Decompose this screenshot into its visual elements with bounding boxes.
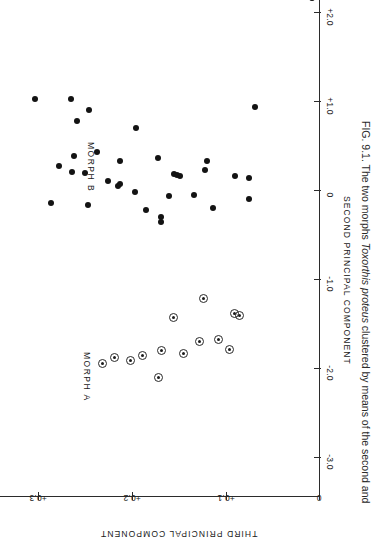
data-point-morph-b <box>204 158 210 164</box>
data-point-morph-a <box>179 349 188 358</box>
x-tick-label: -3.0 <box>325 454 335 469</box>
x-tick-label: -1.0 <box>325 276 335 291</box>
data-point-morph-b <box>71 153 77 159</box>
data-point-morph-b <box>246 196 252 202</box>
x-tick-mark <box>314 190 321 191</box>
data-point-morph-a <box>214 335 223 344</box>
caption-species-name: Toxorthis proteus <box>360 243 372 323</box>
scatter-plot: +2.0 +1.0 0 -1.0 -2.0 -3.0 +0.3 +0.2 +0.… <box>0 0 321 497</box>
data-point-morph-b <box>210 205 216 211</box>
third-principal-component-axis-line <box>0 496 320 497</box>
x-tick-mark <box>314 101 321 102</box>
data-point-morph-b <box>191 192 197 198</box>
data-point-morph-b <box>48 200 54 206</box>
data-point-morph-a <box>225 345 234 354</box>
x-tick-label: +1.0 <box>325 97 335 115</box>
x-tick-label: +2.0 <box>325 8 335 26</box>
data-point-morph-b <box>117 158 123 164</box>
y-axis-title: THIRD PRINCIPAL COMPONENT <box>100 529 257 539</box>
figure-caption: FIG. 9.1. The two morphs Toxorthis prote… <box>359 121 372 521</box>
data-point-morph-b <box>74 118 80 124</box>
data-point-morph-a <box>157 346 166 355</box>
x-tick-mark <box>314 279 321 280</box>
data-point-morph-b <box>309 0 315 1</box>
data-point-morph-b <box>82 170 88 176</box>
y-tick-label: 0 <box>317 493 322 503</box>
data-point-morph-b <box>166 193 172 199</box>
data-point-morph-b <box>32 96 38 102</box>
data-point-morph-b <box>132 189 138 195</box>
data-point-morph-b <box>158 219 164 225</box>
data-point-morph-b <box>85 202 91 208</box>
data-point-morph-b <box>94 149 100 155</box>
x-tick-label: -2.0 <box>325 365 335 380</box>
caption-figure-number: FIG. 9.1. <box>360 121 372 162</box>
x-tick-mark <box>314 368 321 369</box>
data-point-morph-a <box>169 313 178 322</box>
data-point-morph-a <box>154 373 163 382</box>
y-tick-label: +0.1 <box>217 493 235 503</box>
morph-a-group-label: MORPH A <box>82 352 92 402</box>
data-point-morph-b <box>202 167 208 173</box>
data-point-morph-b <box>69 169 75 175</box>
data-point-morph-a <box>195 337 204 346</box>
data-point-morph-a <box>98 359 107 368</box>
data-point-morph-b <box>246 175 252 181</box>
y-tick-label: +0.3 <box>29 493 47 503</box>
data-point-morph-b <box>143 207 149 213</box>
data-point-morph-b <box>68 96 74 102</box>
caption-text-part-1: The two morphs <box>360 162 372 243</box>
data-point-morph-b <box>86 107 92 113</box>
x-axis-title: SECOND PRINCIPAL COMPONENT <box>342 196 352 365</box>
data-point-morph-a <box>126 356 135 365</box>
second-principal-component-axis-line <box>319 0 320 497</box>
data-point-morph-b <box>252 104 258 110</box>
x-tick-mark <box>314 12 321 13</box>
figure-container: +2.0 +1.0 0 -1.0 -2.0 -3.0 +0.3 +0.2 +0.… <box>0 0 385 544</box>
data-point-morph-a <box>138 351 147 360</box>
data-point-morph-b <box>105 178 111 184</box>
data-point-morph-b <box>115 183 121 189</box>
x-tick-mark <box>314 457 321 458</box>
data-point-morph-b <box>177 173 183 179</box>
data-point-morph-a <box>199 294 208 303</box>
data-point-morph-a <box>110 353 119 362</box>
data-point-morph-b <box>133 125 139 131</box>
data-point-morph-b <box>232 173 238 179</box>
data-point-morph-b <box>56 163 62 169</box>
data-point-morph-a <box>235 311 244 320</box>
x-tick-label: 0 <box>325 193 335 198</box>
caption-text-part-2: clustered by means of the second and <box>360 323 372 503</box>
y-tick-label: +0.2 <box>123 493 141 503</box>
data-point-morph-b <box>155 155 161 161</box>
